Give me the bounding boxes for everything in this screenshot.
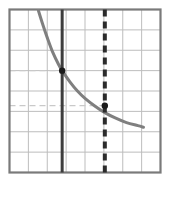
intersection-point-1 [59, 67, 65, 73]
chart-figure [0, 0, 178, 199]
plot-svg [0, 0, 178, 199]
intersection-point-2 [102, 102, 108, 108]
